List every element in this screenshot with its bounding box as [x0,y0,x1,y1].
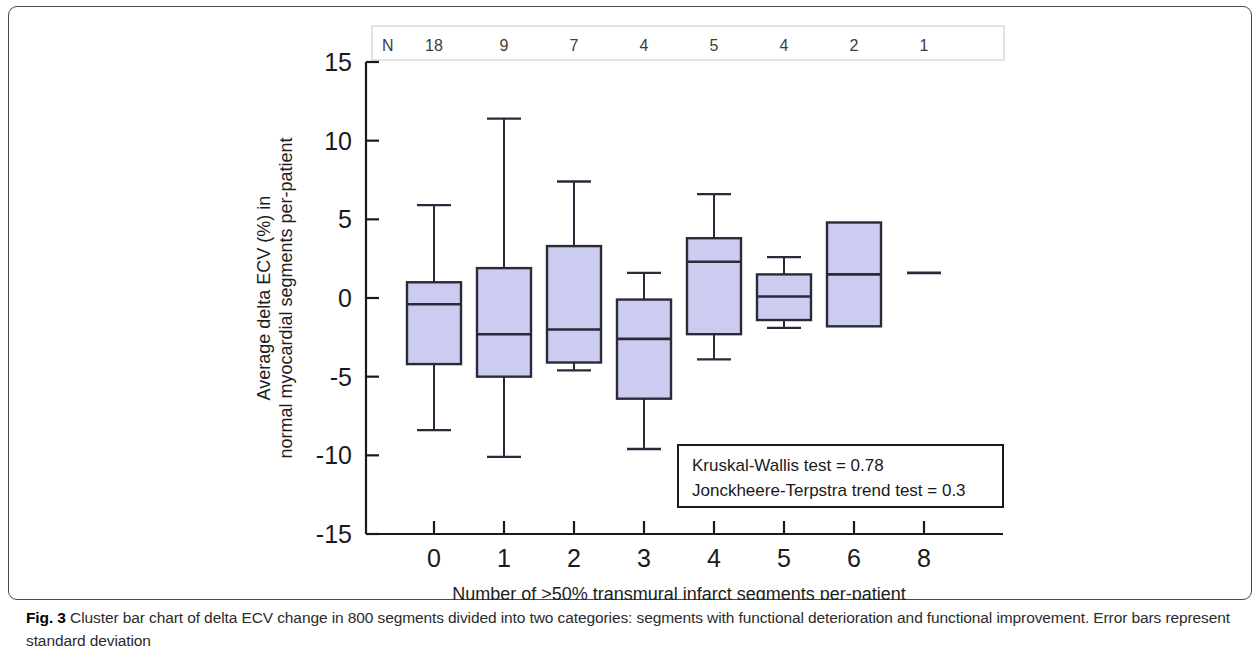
boxplot-1[interactable] [477,119,531,457]
y-tick-label--5: -5 [330,363,352,391]
n-count-6: 2 [850,37,859,54]
figure-caption: Fig. 3 Cluster bar chart of delta ECV ch… [26,606,1238,653]
figure-caption-text: Cluster bar chart of delta ECV change in… [26,609,1230,649]
figure-page: N189745421 151050-5-10-15 01234568 Numbe… [0,0,1260,672]
x-tick-label-6: 6 [847,544,861,572]
y-tick-label-0: 0 [338,284,352,312]
x-tick-label-0: 0 [427,544,441,572]
n-count-5: 4 [780,37,789,54]
y-axis-title-line-1: Average delta ECV (%) in [254,196,274,401]
y-tick-label--15: -15 [316,520,352,548]
x-axis-ticks: 01234568 [427,521,931,572]
box-iqr [547,246,601,362]
box-iqr [477,268,531,377]
x-tick-label-4: 4 [707,544,721,572]
n-count-row: N189745421 [372,26,1004,60]
boxplot-chart: N189745421 151050-5-10-15 01234568 Numbe… [0,0,1260,600]
n-row-label: N [382,37,394,54]
box-iqr [407,282,461,364]
n-count-2: 7 [570,37,579,54]
x-tick-label-2: 2 [567,544,581,572]
n-count-1: 9 [500,37,509,54]
n-count-3: 4 [640,37,649,54]
n-count-8: 1 [920,37,929,54]
n-count-0: 18 [425,37,443,54]
jonckheere-terpstra-result: Jonckheere-Terpstra trend test = 0.3 [692,481,966,500]
y-tick-label--10: -10 [316,441,352,469]
x-tick-label-3: 3 [637,544,651,572]
boxplot-3[interactable] [617,273,671,449]
box-iqr [617,300,671,399]
boxplot-4[interactable] [687,194,741,359]
kruskal-wallis-result: Kruskal-Wallis test = 0.78 [692,456,884,475]
x-tick-label-5: 5 [777,544,791,572]
box-iqr [687,238,741,334]
n-count-4: 5 [710,37,719,54]
y-tick-label-10: 10 [324,127,352,155]
n-row-border [372,26,1004,60]
y-axis-title-line-2: normal myocardial segments per-patient [276,137,296,458]
x-tick-label-8: 8 [917,544,931,572]
boxplot-5[interactable] [757,257,811,328]
x-axis-title: Number of >50% transmural infarct segmen… [452,584,906,600]
x-tick-label-1: 1 [497,544,511,572]
boxplot-0[interactable] [407,205,461,430]
boxplot-2[interactable] [547,182,601,371]
boxplot-6[interactable] [827,222,881,326]
y-axis-ticks: 151050-5-10-15 [316,48,379,548]
y-tick-label-5: 5 [338,205,352,233]
y-tick-label-15: 15 [324,48,352,76]
statistics-annotation-box: Kruskal-Wallis test = 0.78Jonckheere-Ter… [678,445,1003,507]
boxplot-series [407,119,941,457]
figure-number: Fig. 3 [26,609,66,626]
